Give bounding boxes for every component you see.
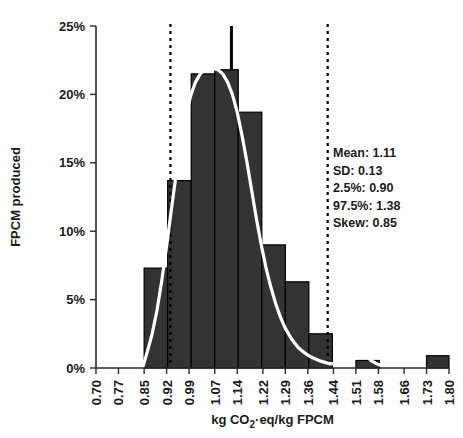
- x-tick-label: 1.22: [256, 380, 271, 405]
- stat-text-line: 97.5%: 1.38: [333, 199, 400, 213]
- x-tick-label: 1.66: [397, 380, 412, 405]
- statistics-annotation: Mean: 1.11SD: 0.132.5%: 0.9097.5%: 1.38S…: [333, 146, 400, 230]
- y-tick-label: 20%: [59, 87, 85, 102]
- histogram-chart: 0.700.770.850.920.991.071.141.221.291.36…: [0, 0, 463, 438]
- x-tick-label: 1.07: [208, 380, 223, 405]
- y-axis-ticks: 0%5%10%15%20%25%: [59, 19, 96, 376]
- stat-text-line: Skew: 0.85: [333, 216, 397, 230]
- histogram-bar: [191, 74, 215, 368]
- y-tick-label: 15%: [59, 155, 85, 170]
- x-tick-label: 1.29: [278, 380, 293, 405]
- histogram-bar: [238, 112, 262, 368]
- x-axis-title: kg CO2·eq/kg FPCM: [211, 412, 334, 430]
- x-tick-label: 1.44: [326, 379, 341, 405]
- y-axis-title: FPCM produced: [8, 147, 23, 247]
- y-tick-label: 10%: [59, 224, 85, 239]
- x-tick-label: 0.99: [182, 380, 197, 405]
- x-tick-label: 0.70: [89, 380, 104, 405]
- x-tick-label: 1.80: [442, 380, 457, 405]
- histogram-bar: [215, 70, 239, 368]
- x-tick-label: 1.58: [371, 380, 386, 405]
- x-tick-label: 1.14: [230, 379, 245, 405]
- stat-text-line: 2.5%: 0.90: [333, 181, 394, 195]
- stat-text-line: SD: 0.13: [333, 164, 382, 178]
- histogram-bar: [427, 356, 449, 368]
- y-tick-label: 5%: [66, 292, 85, 307]
- x-tick-label: 0.92: [160, 380, 175, 405]
- x-axis-ticks: 0.700.770.850.920.991.071.141.221.291.36…: [89, 368, 457, 405]
- y-tick-label: 25%: [59, 19, 85, 34]
- stat-text-line: Mean: 1.11: [333, 146, 396, 160]
- x-tick-label: 0.85: [137, 380, 152, 405]
- x-tick-label: 1.73: [420, 380, 435, 405]
- x-tick-label: 0.77: [111, 380, 126, 405]
- y-tick-label: 0%: [66, 361, 85, 376]
- x-tick-label: 1.51: [349, 380, 364, 405]
- chart-canvas: 0.700.770.850.920.991.071.141.221.291.36…: [0, 0, 463, 438]
- x-tick-label: 1.36: [301, 380, 316, 405]
- bars-layer: [144, 70, 449, 368]
